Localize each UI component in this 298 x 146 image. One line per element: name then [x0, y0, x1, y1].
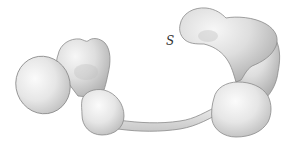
molecule-diagram: S [0, 0, 298, 146]
molecule-shape [0, 0, 298, 146]
right-bottom-lobe [212, 82, 271, 137]
label-s: S [166, 34, 174, 48]
right-top-shadow [198, 30, 218, 42]
left-lower-lobe [82, 89, 124, 135]
tether [118, 104, 226, 131]
left-upper-shadow [74, 64, 98, 80]
